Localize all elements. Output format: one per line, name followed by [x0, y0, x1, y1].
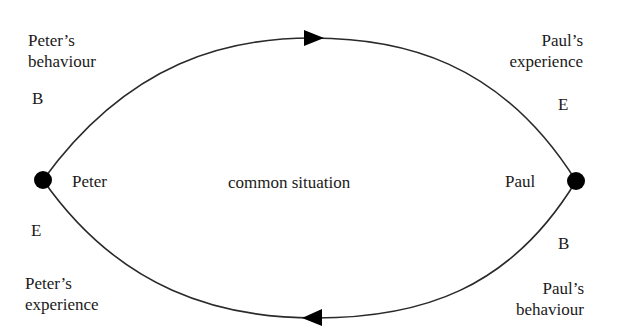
- label-line: behaviour: [28, 51, 96, 72]
- paul-node-label: Paul: [505, 171, 535, 192]
- label-line: experience: [509, 51, 583, 72]
- pauls-experience-label: Paul’s experience: [509, 30, 583, 72]
- label-line: Paul’s: [516, 278, 584, 299]
- bottom-arc-edge: [43, 180, 576, 318]
- top-arc-edge: [43, 38, 576, 181]
- bottom-left-letter-e: E: [31, 220, 41, 241]
- bottom-right-letter-b: B: [558, 233, 569, 254]
- arrow-left-icon: [302, 309, 322, 326]
- peters-experience-label: Peter’s experience: [25, 273, 99, 315]
- label-line: experience: [25, 294, 99, 315]
- paul-node: [567, 172, 585, 190]
- top-right-letter-e: E: [558, 94, 568, 115]
- label-line: Peter’s: [28, 30, 96, 51]
- peters-behaviour-label: Peter’s behaviour: [28, 30, 96, 72]
- top-left-letter-b: B: [32, 88, 43, 109]
- peter-node-label: Peter: [72, 171, 107, 192]
- arrow-right-icon: [304, 30, 324, 46]
- label-line: behaviour: [516, 299, 584, 320]
- center-label: common situation: [228, 172, 350, 193]
- peter-node: [34, 171, 52, 189]
- pauls-behaviour-label: Paul’s behaviour: [516, 278, 584, 320]
- label-line: Paul’s: [509, 30, 583, 51]
- label-line: Peter’s: [25, 273, 99, 294]
